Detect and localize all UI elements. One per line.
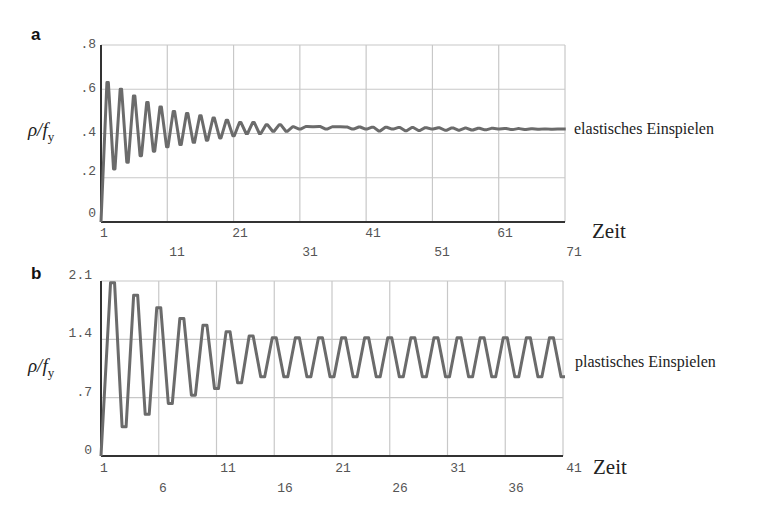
plot-area-a [101, 45, 566, 222]
plot-area-b [101, 281, 565, 456]
chart-canvas [0, 0, 782, 527]
